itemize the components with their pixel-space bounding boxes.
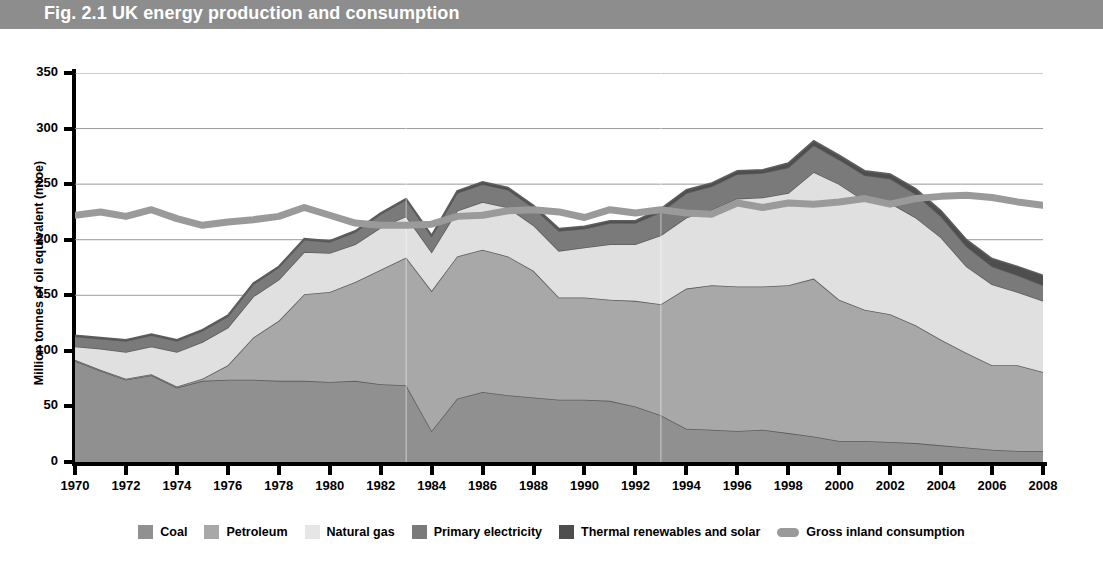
legend-color-swatch-icon xyxy=(138,525,153,539)
x-tick-mark xyxy=(226,466,230,475)
x-tick-mark xyxy=(430,466,434,475)
x-tick-mark xyxy=(328,466,332,475)
y-tick-label: 50 xyxy=(10,397,58,412)
x-tick-mark xyxy=(684,466,688,475)
y-tick-label: 350 xyxy=(10,64,58,79)
legend-item[interactable]: Primary electricity xyxy=(412,525,542,539)
legend-item-label: Petroleum xyxy=(226,525,287,539)
x-tick-mark xyxy=(1041,466,1045,475)
legend-item-label: Primary electricity xyxy=(434,525,542,539)
x-tick-mark xyxy=(888,466,892,475)
y-tick-label: 0 xyxy=(10,453,58,468)
legend-item-label: Thermal renewables and solar xyxy=(581,525,760,539)
page-title: Fig. 2.1 UK energy production and consum… xyxy=(44,3,460,24)
y-tick-label: 150 xyxy=(10,286,58,301)
legend-item[interactable]: Natural gas xyxy=(305,525,395,539)
x-tick-label: 2008 xyxy=(1013,478,1073,493)
legend-item-label: Gross inland consumption xyxy=(806,525,964,539)
x-tick-mark xyxy=(277,466,281,475)
legend-item[interactable]: Thermal renewables and solar xyxy=(559,525,760,539)
legend-color-swatch-icon xyxy=(204,525,219,539)
y-tick-label: 250 xyxy=(10,175,58,190)
chart-legend: CoalPetroleumNatural gasPrimary electric… xyxy=(0,515,1103,549)
x-tick-mark xyxy=(73,466,77,475)
x-axis-line xyxy=(72,462,1047,466)
x-tick-mark xyxy=(786,466,790,475)
plot-area xyxy=(75,73,1043,462)
y-tick-label: 200 xyxy=(10,231,58,246)
legend-color-swatch-icon xyxy=(305,525,320,539)
legend-item[interactable]: Gross inland consumption xyxy=(777,525,964,539)
legend-item[interactable]: Petroleum xyxy=(204,525,287,539)
legend-line-swatch-icon xyxy=(777,528,799,537)
x-tick-mark xyxy=(990,466,994,475)
x-tick-mark xyxy=(582,466,586,475)
x-tick-mark xyxy=(939,466,943,475)
legend-item-label: Coal xyxy=(160,525,187,539)
legend-item-label: Natural gas xyxy=(327,525,395,539)
stacked-area-chart xyxy=(75,73,1043,462)
x-tick-mark xyxy=(124,466,128,475)
x-tick-mark xyxy=(735,466,739,475)
x-tick-mark xyxy=(837,466,841,475)
legend-color-swatch-icon xyxy=(559,525,574,539)
figure-title-banner: Fig. 2.1 UK energy production and consum… xyxy=(0,0,1103,29)
y-tick-label: 100 xyxy=(10,342,58,357)
x-tick-mark xyxy=(481,466,485,475)
legend-item[interactable]: Coal xyxy=(138,525,187,539)
chart-figure: Million tonnes of oil equivalent (mtoe) … xyxy=(0,29,1103,565)
x-tick-mark xyxy=(379,466,383,475)
x-tick-mark xyxy=(175,466,179,475)
y-tick-label: 300 xyxy=(10,120,58,135)
legend-color-swatch-icon xyxy=(412,525,427,539)
stacked-area-series xyxy=(75,141,1043,462)
x-tick-mark xyxy=(633,466,637,475)
x-tick-mark xyxy=(532,466,536,475)
